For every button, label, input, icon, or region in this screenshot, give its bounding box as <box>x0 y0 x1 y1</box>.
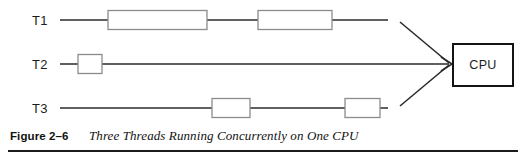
cpu-node: CPU <box>453 44 513 86</box>
thread-row-t3: T3 <box>32 99 388 118</box>
exec-block-t3-1 <box>212 99 250 118</box>
thread-label-t1: T1 <box>32 13 48 28</box>
caption-text-line: Figure 2–6 Three Threads Running Concurr… <box>10 126 359 144</box>
thread-row-t2: T2 <box>32 55 388 74</box>
caption-divider <box>8 150 518 152</box>
thread-label-t2: T2 <box>32 57 48 72</box>
figure-caption: Figure 2–6 Three Threads Running Concurr… <box>0 126 524 154</box>
thread-row-t1: T1 <box>32 11 388 30</box>
thread-label-t3: T3 <box>32 101 48 116</box>
cpu-label: CPU <box>469 58 496 72</box>
caption-figure-number: Figure 2–6 <box>10 130 69 142</box>
exec-block-t3-2 <box>345 99 380 118</box>
convergence-arrows <box>388 22 452 106</box>
exec-block-t1-1 <box>108 11 207 30</box>
exec-block-t1-2 <box>258 11 332 30</box>
caption-figure-title: Three Threads Running Concurrently on On… <box>89 128 359 143</box>
thread-cpu-diagram: T1 T2 T3 CPU <box>0 0 524 134</box>
exec-block-t2-1 <box>78 55 102 74</box>
figure-container: T1 T2 T3 CPU <box>0 0 524 154</box>
